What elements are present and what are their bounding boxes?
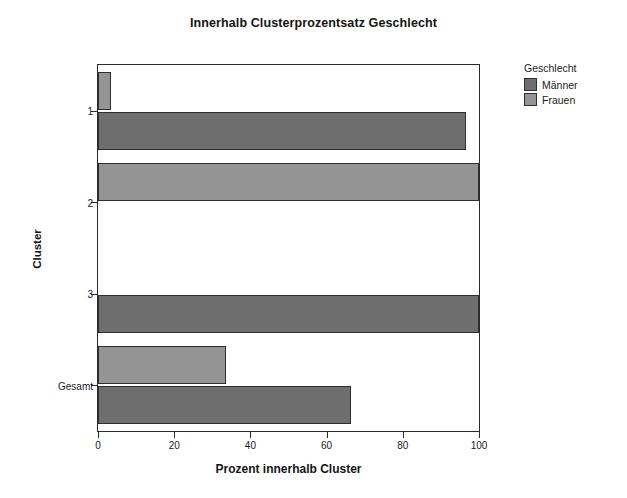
bar	[98, 386, 351, 424]
x-tick-label: 40	[245, 440, 256, 451]
x-tick-mark	[174, 431, 175, 438]
legend-entry: Frauen	[524, 93, 624, 106]
x-tick-mark	[98, 431, 99, 438]
y-tick-label: Gesamt	[58, 380, 93, 391]
chart-container: Innerhalb Clusterprozentsatz Geschlecht …	[0, 0, 627, 498]
x-tick-label: 60	[321, 440, 332, 451]
legend: Geschlecht MännerFrauen	[524, 62, 624, 108]
y-axis-title: Cluster	[31, 229, 43, 269]
chart-title: Innerhalb Clusterprozentsatz Geschlecht	[0, 16, 627, 30]
bars-layer	[98, 65, 479, 431]
legend-entries: MännerFrauen	[524, 78, 624, 106]
y-tick-label: 1	[87, 106, 93, 117]
x-tick-label: 100	[471, 440, 488, 451]
x-tick-label: 0	[95, 440, 101, 451]
bar	[98, 295, 479, 333]
x-tick-label: 80	[397, 440, 408, 451]
legend-swatch-icon	[524, 93, 537, 106]
bar	[98, 112, 466, 150]
legend-entry-label: Frauen	[542, 94, 575, 106]
legend-entry-label: Männer	[542, 79, 578, 91]
x-tick-mark	[250, 431, 251, 438]
bar	[98, 346, 226, 384]
legend-swatch-icon	[524, 78, 537, 91]
plot-area: 123Gesamt 020406080100	[97, 64, 480, 432]
legend-entry: Männer	[524, 78, 624, 91]
x-tick-label: 20	[169, 440, 180, 451]
legend-title: Geschlecht	[524, 62, 624, 74]
x-tick-mark	[403, 431, 404, 438]
x-axis-title: Prozent innerhalb Cluster	[97, 462, 480, 476]
y-tick-label: 2	[87, 197, 93, 208]
x-tick-mark	[327, 431, 328, 438]
bar	[98, 163, 479, 201]
bar	[98, 72, 111, 110]
y-tick-label: 3	[87, 289, 93, 300]
x-tick-mark	[479, 431, 480, 438]
